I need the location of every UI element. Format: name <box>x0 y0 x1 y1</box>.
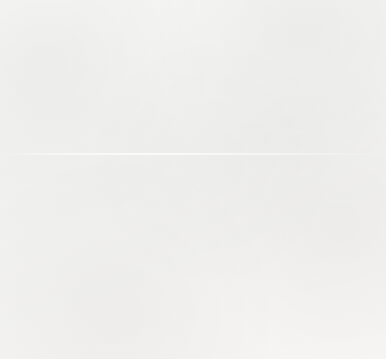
x-tick-mark-end <box>372 322 373 328</box>
y-tick-group-2: 20 <box>18 236 68 237</box>
y-tick-mark-4 <box>62 150 68 151</box>
x-tick-label-no-model: No Model <box>240 332 350 343</box>
y-tick-group-5: 50 <box>18 106 68 107</box>
bar-no-model[interactable] <box>262 175 328 322</box>
y-tick-group-1: 10 <box>18 279 68 280</box>
y-tick-label-6: 60 <box>28 63 68 73</box>
y-tick-mark-5 <box>62 106 68 107</box>
y-axis-line <box>68 20 69 323</box>
x-tick-label-model: Model <box>78 332 188 343</box>
y-tick-label-1: 10 <box>28 279 68 289</box>
y-tick-label-4: 40 <box>28 150 68 160</box>
y-tick-mark-3 <box>62 193 68 194</box>
y-tick-mark-1 <box>62 279 68 280</box>
y-tick-group-6: 60 <box>18 63 68 64</box>
y-tick-group-0: 0 <box>18 322 68 323</box>
y-axis-title: Number of Drivers Who Offered Help <box>29 51 41 301</box>
y-tick-label-3: 30 <box>28 193 68 203</box>
x-axis-line <box>68 322 373 323</box>
x-tick-mark-middle <box>215 322 216 328</box>
y-tick-group-4: 40 <box>18 150 68 151</box>
y-tick-label-0: 0 <box>28 322 68 332</box>
bar-chart: Number of Drivers Who Offered Help 0 10 … <box>0 0 386 359</box>
y-tick-mark-6 <box>62 63 68 64</box>
y-tick-label-7: 70 <box>28 20 68 30</box>
y-tick-label-2: 20 <box>28 236 68 246</box>
bar-model[interactable] <box>100 72 166 322</box>
y-tick-mark-7 <box>62 20 68 21</box>
y-tick-group-3: 30 <box>18 193 68 194</box>
y-tick-mark-2 <box>62 236 68 237</box>
y-tick-group-7: 70 <box>18 20 68 21</box>
y-tick-label-5: 50 <box>28 106 68 116</box>
